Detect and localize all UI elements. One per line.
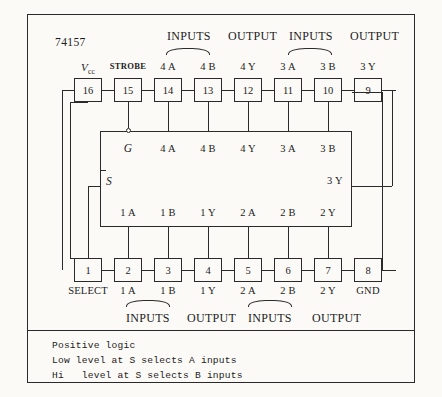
pin-box-1[interactable]: 1 [74,258,102,282]
wire-gnd-top-h [352,92,382,93]
inner-top-label-4y: 4 Y [234,144,262,155]
bottom-header-0: INPUTS [126,312,170,324]
wire-bottom-riser-3 [248,227,249,258]
top-header-0: INPUTS [167,30,211,42]
pin-lead-stub-bottom-3 [222,270,234,271]
top-header-3: OUTPUT [350,30,399,42]
inner-bottom-label-2a: 2 A [234,208,262,219]
pin-box-2[interactable]: 2 [114,258,142,282]
pin-box-10[interactable]: 10 [314,78,342,102]
inner-top-label-4b: 4 B [194,144,222,155]
top-header-1: OUTPUT [228,30,277,42]
wire-vcc-left-h [62,90,74,91]
pin-box-9[interactable]: 9 [354,78,382,102]
wire-gnd-h [382,270,396,271]
pin-lead-stub-top-5 [302,90,314,91]
inner-top-label-3a: 3 A [274,144,302,155]
wire-top-drop-3 [288,102,289,131]
pin-box-16[interactable]: 16 [74,78,102,102]
bottom-brace-0 [126,300,170,307]
pin-lead-stub-top-4 [262,90,274,91]
wire-select-h [88,186,100,187]
wire-bottom-riser-4 [288,227,289,258]
pin-box-7[interactable]: 7 [314,258,342,282]
pin-lead-stub-bottom-4 [262,270,274,271]
top-brace-0 [166,48,210,55]
wire-left-inner-v [70,102,71,258]
pin-lead-stub-top-1 [142,90,154,91]
wire-top-drop-2 [248,102,249,131]
top-header-2: INPUTS [289,30,333,42]
pin-lead-stub-bottom-6 [342,270,354,271]
inner-bottom-label-2y: 2 Y [314,208,342,219]
pin-box-3[interactable]: 3 [154,258,182,282]
bottom-brace-1 [248,300,292,307]
pin-box-8[interactable]: 8 [354,258,382,282]
inner-bottom-label-2b: 2 B [274,208,302,219]
inner-bottom-label-1b: 1 B [154,208,182,219]
legend-box: Positive logicLow level at S selects A i… [52,338,243,383]
wire-3y-top-h [382,90,396,91]
pin-lead-stub-bottom-0 [102,270,114,271]
pin-lead-stub-top-3 [222,90,234,91]
pin-box-4[interactable]: 4 [194,258,222,282]
wire-select-v [88,186,89,258]
pin-box-15[interactable]: 15 [114,78,142,102]
inner-side-label-s: S [106,176,112,188]
bottom-header-1: OUTPUT [187,312,236,324]
legend-line-0: Positive logic [52,338,243,353]
inner-bottom-label-1y: 1 Y [194,208,222,219]
wire-bottom-riser-1 [168,227,169,258]
wire-top-drop-4 [328,102,329,131]
legend-line-1: Low level at S selects A inputs [52,353,243,368]
wire-gnd-right-v [382,92,383,270]
wire-bottom-riser-2 [208,227,209,258]
inner-top-label-4a: 4 A [154,144,182,155]
wire-bottom-riser-5 [328,227,329,258]
diagram-page: 74157 INPUTSOUTPUTINPUTSOUTPUT INPUTSOUT… [0,0,442,397]
legend-line-2: Hi level at S selects B inputs [52,368,243,383]
inner-top-label-g: G [114,143,142,155]
frame-divider [27,330,415,331]
wire-3y-right-v [392,90,393,186]
pin-label-8: GND [336,286,400,297]
pin-box-12[interactable]: 12 [234,78,262,102]
pin-lead-stub-top-2 [182,90,194,91]
pin-box-5[interactable]: 5 [234,258,262,282]
top-brace-1 [288,48,332,55]
bottom-header-2: INPUTS [248,312,292,324]
pin-lead-stub-bottom-5 [302,270,314,271]
wire-left-inner-h-bottom [70,258,74,259]
wire-top-drop-1 [208,102,209,131]
inner-side-label-3y: 3 Y [327,176,343,187]
inner-top-label-3b: 3 B [314,144,342,155]
pin-box-11[interactable]: 11 [274,78,302,102]
pin-lead-stub-bottom-1 [142,270,154,271]
pin-lead-stub-top-0 [102,90,114,91]
wire-strobe-to-g [128,102,129,128]
wire-top-drop-0 [168,102,169,131]
pin-box-6[interactable]: 6 [274,258,302,282]
wire-bottom-riser-0 [128,227,129,258]
bottom-header-3: OUTPUT [312,312,361,324]
pin-label-9: 3 Y [338,62,398,73]
inversion-bubble-icon [126,128,131,133]
pin-box-13[interactable]: 13 [194,78,222,102]
part-number: 74157 [55,37,86,49]
pin-box-14[interactable]: 14 [154,78,182,102]
wire-left-inner-h-top [70,102,88,103]
wire-3y-into-box [352,186,392,187]
pin-lead-stub-bottom-2 [182,270,194,271]
inner-bottom-label-1a: 1 A [114,208,142,219]
wire-vcc-left-v [62,90,63,270]
